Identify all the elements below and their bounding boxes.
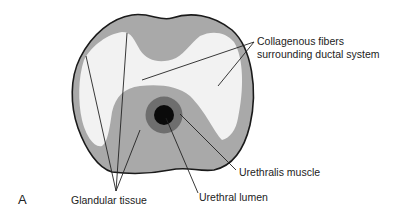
- panel-label: A: [18, 192, 27, 207]
- label-urethralis-muscle: Urethralis muscle: [239, 166, 320, 178]
- prostate-cross-section-diagram: Collagenous fibers surrounding ductal sy…: [0, 0, 396, 217]
- label-glandular-tissue: Glandular tissue: [71, 194, 147, 206]
- label-urethral-lumen: Urethral lumen: [199, 191, 268, 203]
- label-collagenous-fibers-line2: surrounding ductal system: [257, 48, 380, 60]
- label-collagenous-fibers: Collagenous fibers: [257, 35, 344, 47]
- urethral-lumen: [154, 105, 174, 125]
